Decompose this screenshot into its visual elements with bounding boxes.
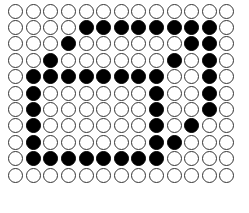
dot-cell[interactable] xyxy=(165,36,183,52)
dot-cell[interactable] xyxy=(165,167,183,183)
dot-cell[interactable] xyxy=(148,134,166,150)
dot-cell[interactable] xyxy=(7,134,25,150)
dot-cell[interactable] xyxy=(42,36,60,52)
dot-cell[interactable] xyxy=(7,101,25,117)
dot-cell[interactable] xyxy=(148,3,166,19)
dot-cell[interactable] xyxy=(42,151,60,167)
dot-cell[interactable] xyxy=(201,36,219,52)
dot-cell[interactable] xyxy=(165,19,183,35)
dot-cell[interactable] xyxy=(201,19,219,35)
dot-cell[interactable] xyxy=(60,3,78,19)
dot-cell[interactable] xyxy=(218,85,236,101)
dot-cell[interactable] xyxy=(25,167,43,183)
dot-cell[interactable] xyxy=(95,151,113,167)
dot-cell[interactable] xyxy=(218,151,236,167)
dot-cell[interactable] xyxy=(42,19,60,35)
dot-cell[interactable] xyxy=(201,85,219,101)
dot-cell[interactable] xyxy=(130,85,148,101)
dot-cell[interactable] xyxy=(201,167,219,183)
dot-cell[interactable] xyxy=(95,101,113,117)
dot-cell[interactable] xyxy=(148,85,166,101)
dot-cell[interactable] xyxy=(113,118,131,134)
dot-cell[interactable] xyxy=(25,101,43,117)
dot-cell[interactable] xyxy=(42,52,60,68)
dot-cell[interactable] xyxy=(7,3,25,19)
dot-cell[interactable] xyxy=(60,134,78,150)
dot-cell[interactable] xyxy=(25,36,43,52)
dot-cell[interactable] xyxy=(201,3,219,19)
dot-cell[interactable] xyxy=(218,69,236,85)
dot-cell[interactable] xyxy=(183,69,201,85)
dot-cell[interactable] xyxy=(42,167,60,183)
dot-cell[interactable] xyxy=(77,69,95,85)
dot-cell[interactable] xyxy=(201,52,219,68)
dot-cell[interactable] xyxy=(77,151,95,167)
dot-cell[interactable] xyxy=(113,19,131,35)
dot-cell[interactable] xyxy=(130,52,148,68)
dot-cell[interactable] xyxy=(113,69,131,85)
dot-cell[interactable] xyxy=(42,118,60,134)
dot-cell[interactable] xyxy=(113,85,131,101)
dot-cell[interactable] xyxy=(165,52,183,68)
dot-cell[interactable] xyxy=(130,167,148,183)
dot-cell[interactable] xyxy=(77,3,95,19)
dot-cell[interactable] xyxy=(183,118,201,134)
dot-cell[interactable] xyxy=(7,19,25,35)
dot-cell[interactable] xyxy=(77,52,95,68)
dot-cell[interactable] xyxy=(148,19,166,35)
dot-cell[interactable] xyxy=(25,151,43,167)
dot-cell[interactable] xyxy=(201,101,219,117)
dot-cell[interactable] xyxy=(25,69,43,85)
dot-cell[interactable] xyxy=(218,3,236,19)
dot-cell[interactable] xyxy=(130,69,148,85)
dot-cell[interactable] xyxy=(218,134,236,150)
dot-cell[interactable] xyxy=(95,118,113,134)
dot-cell[interactable] xyxy=(130,101,148,117)
dot-cell[interactable] xyxy=(42,3,60,19)
dot-cell[interactable] xyxy=(42,85,60,101)
dot-cell[interactable] xyxy=(148,101,166,117)
dot-cell[interactable] xyxy=(95,167,113,183)
dot-cell[interactable] xyxy=(95,85,113,101)
dot-cell[interactable] xyxy=(7,167,25,183)
dot-cell[interactable] xyxy=(7,151,25,167)
dot-cell[interactable] xyxy=(42,134,60,150)
dot-cell[interactable] xyxy=(60,118,78,134)
dot-cell[interactable] xyxy=(113,151,131,167)
dot-cell[interactable] xyxy=(113,134,131,150)
dot-cell[interactable] xyxy=(165,3,183,19)
dot-cell[interactable] xyxy=(60,85,78,101)
dot-cell[interactable] xyxy=(77,167,95,183)
dot-cell[interactable] xyxy=(77,101,95,117)
dot-cell[interactable] xyxy=(183,167,201,183)
dot-cell[interactable] xyxy=(77,118,95,134)
dot-cell[interactable] xyxy=(218,118,236,134)
dot-cell[interactable] xyxy=(95,3,113,19)
dot-cell[interactable] xyxy=(130,19,148,35)
dot-cell[interactable] xyxy=(148,167,166,183)
dot-cell[interactable] xyxy=(218,101,236,117)
dot-cell[interactable] xyxy=(77,85,95,101)
dot-cell[interactable] xyxy=(7,36,25,52)
dot-cell[interactable] xyxy=(201,118,219,134)
dot-cell[interactable] xyxy=(148,69,166,85)
dot-cell[interactable] xyxy=(113,101,131,117)
dot-cell[interactable] xyxy=(25,52,43,68)
dot-cell[interactable] xyxy=(113,167,131,183)
dot-cell[interactable] xyxy=(201,134,219,150)
dot-cell[interactable] xyxy=(148,36,166,52)
dot-cell[interactable] xyxy=(95,19,113,35)
dot-cell[interactable] xyxy=(148,118,166,134)
dot-cell[interactable] xyxy=(183,3,201,19)
dot-cell[interactable] xyxy=(77,134,95,150)
dot-cell[interactable] xyxy=(113,52,131,68)
dot-cell[interactable] xyxy=(148,52,166,68)
dot-cell[interactable] xyxy=(165,134,183,150)
dot-cell[interactable] xyxy=(7,118,25,134)
dot-cell[interactable] xyxy=(42,101,60,117)
dot-cell[interactable] xyxy=(7,85,25,101)
dot-cell[interactable] xyxy=(60,52,78,68)
dot-cell[interactable] xyxy=(60,151,78,167)
dot-cell[interactable] xyxy=(113,3,131,19)
dot-cell[interactable] xyxy=(218,36,236,52)
